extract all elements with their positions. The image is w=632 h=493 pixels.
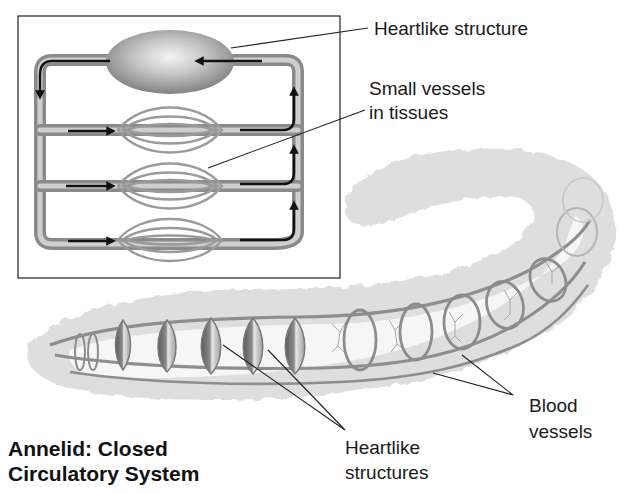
label-small-vessels-line2: in tissues [369,101,448,125]
inset-diagram [18,16,340,278]
label-heartlike-structures-line2: structures [345,461,428,485]
figure-title-line1: Annelid: Closed [8,436,168,461]
label-small-vessels-line1: Small vessels [369,77,485,101]
label-blood-vessels-line2: vessels [529,420,592,444]
label-heartlike-structures-line1: Heartlike [345,436,420,460]
label-heartlike-structure: Heartlike structure [374,17,528,41]
label-blood-vessels-line1: Blood [529,394,578,418]
figure-title-line2: Circulatory System [8,461,199,486]
